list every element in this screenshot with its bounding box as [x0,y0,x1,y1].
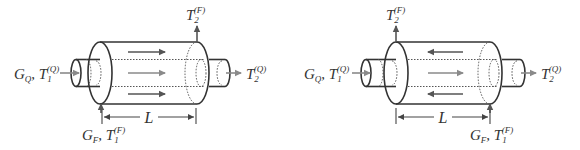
length-dimension: L [396,108,490,126]
length-label: L [144,109,154,126]
shell-outlet-end [197,42,209,104]
length-label: L [438,109,448,126]
tube-outlet-label: T2(Q) [541,64,561,84]
tube-outlet-label: T2(Q) [246,64,266,84]
diagram-co-current: L GQ, T1(Q) T2(Q) T2(F) GF, T1(F) [14,5,266,145]
shell-inlet-label: GF, T1(F) [82,125,125,145]
shell-outlet-label: T2(F) [386,5,405,25]
diagram-counter-current: L GQ, T1(Q) T2(Q) T2(F) GF, T1(F) [304,5,561,145]
shell-inlet-label: GF, T1(F) [470,125,513,145]
heat-exchanger-figure: L GQ, T1(Q) T2(Q) T2(F) GF, T1(F) [0,0,580,150]
tube-inlet-label: GQ, T1(Q) [14,64,59,84]
shell-outlet-label: T2(F) [186,5,205,25]
tube-inlet-label: GQ, T1(Q) [304,64,349,84]
shell-left-end [384,42,408,104]
shell-right-end [490,42,502,104]
length-dimension: L [102,108,196,126]
shell-inlet-end [88,42,112,104]
